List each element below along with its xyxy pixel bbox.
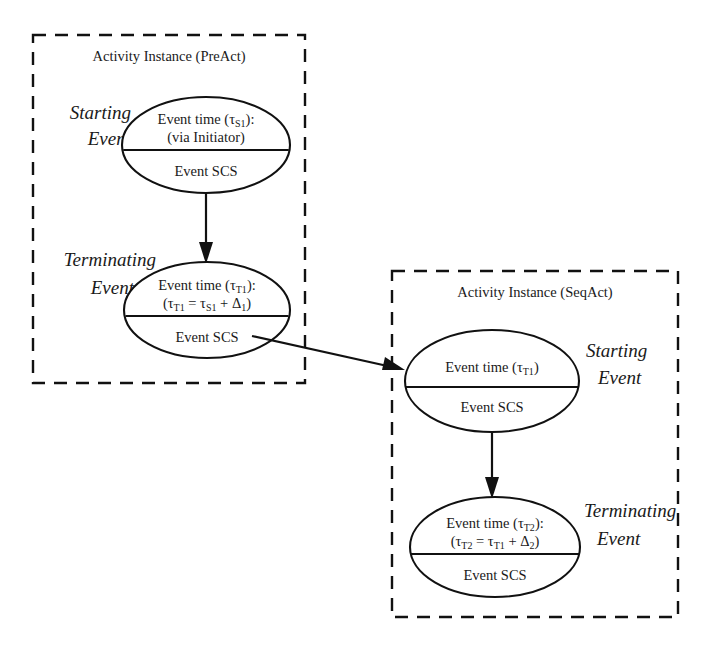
activity-sequence-diagram: Activity Instance (PreAct) Starting Even…	[0, 0, 715, 656]
preact-terminating-event-scs: Event SCS	[175, 329, 238, 345]
preact-terminating-event-time-subscript: T1	[236, 284, 247, 295]
seqact-terminating-event-scs: Event SCS	[463, 567, 526, 583]
seqact-starting-event-label: Starting Event	[586, 340, 647, 388]
seqact-terminating-event-label-line2: Event	[596, 528, 641, 549]
seqact-starting-event-label-line1: Starting	[586, 340, 647, 361]
seqact-starting-event-node[interactable]: Event time (τT1) Event SCS	[405, 330, 579, 432]
preact-starting-event-node[interactable]: Event time (τS1): (via Initiator) Event …	[122, 97, 290, 193]
arrow-preact-terminating-to-seqact-start	[252, 336, 405, 370]
arrow-seqact-start-to-terminating	[485, 432, 499, 499]
preact-starting-event-time-line2: (via Initiator)	[167, 129, 245, 146]
arrow-preact-start-to-terminating	[199, 194, 213, 264]
preact-starting-event-label-line1: Starting	[70, 102, 131, 123]
arrow-seqact-start-to-terminating-head	[485, 477, 499, 499]
diagram-canvas: Activity Instance (PreAct) Starting Even…	[0, 0, 715, 656]
seqact-starting-event-scs: Event SCS	[460, 399, 523, 415]
arrow-preact-terminating-to-seqact-start-head	[382, 357, 405, 370]
preact-starting-event-time-subscript: S1	[235, 118, 246, 129]
preact-terminating-event-node[interactable]: Event time (τT1): (τT1 = τS1 + Δ1) Event…	[124, 262, 290, 358]
seqact-terminating-event-label: Terminating Event	[584, 500, 676, 549]
seqact-starting-event-ellipse[interactable]	[405, 330, 579, 432]
arrow-preact-start-to-terminating-head	[199, 242, 213, 264]
seqact-terminating-event-time-subscript: T2	[524, 522, 535, 533]
preact-starting-event-scs: Event SCS	[174, 163, 237, 179]
seqact-terminating-event-label-line1: Terminating	[584, 500, 676, 521]
preact-terminating-event-label-line1: Terminating	[64, 249, 156, 270]
seqact-starting-event-label-line2: Event	[597, 367, 642, 388]
seqact-terminating-event-node[interactable]: Event time (τT2): (τT2 = τT1 + Δ2) Event…	[410, 497, 580, 597]
activity-instance-seqact-title: Activity Instance (SeqAct)	[457, 284, 613, 301]
arrow-preact-terminating-to-seqact-start-line	[252, 336, 392, 367]
activity-instance-preact-title: Activity Instance (PreAct)	[92, 48, 245, 65]
seqact-starting-event-time-subscript: T1	[523, 366, 534, 377]
